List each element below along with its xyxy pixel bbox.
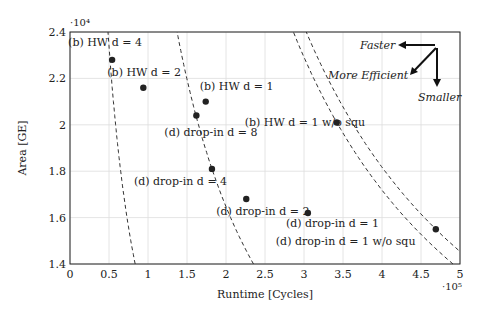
y-tick-label: 1.4 <box>49 258 67 271</box>
y-axis-label: Area [GE] <box>16 120 29 176</box>
y-tick-label: 2.4 <box>49 26 67 39</box>
y-tick-label: 2.2 <box>49 72 67 85</box>
data-point <box>209 166 215 172</box>
x-tick-label: 4 <box>379 268 386 281</box>
point-label: (b) HW d = 4 <box>68 36 142 49</box>
arrow-down-icon <box>433 79 441 87</box>
x-tick-label: 2.5 <box>256 268 274 281</box>
point-label: (d) drop-in d = 8 <box>164 126 257 139</box>
annotation-smaller: Smaller <box>418 91 462 104</box>
y-tick-label: 2 <box>59 119 66 132</box>
data-point <box>140 84 146 90</box>
x-tick-label: 5 <box>457 268 464 281</box>
data-point <box>243 196 249 202</box>
x-multiplier: ·10⁵ <box>442 281 462 292</box>
annotation-efficient: More Efficient <box>327 69 409 82</box>
x-tick-label: 3 <box>301 268 308 281</box>
x-tick-label: 0 <box>67 268 74 281</box>
point-label: (b) HW d = 1 <box>200 80 274 93</box>
x-tick-label: 1 <box>145 268 152 281</box>
x-tick-label: 4.5 <box>412 268 430 281</box>
x-tick-label: 3.5 <box>334 268 352 281</box>
data-point <box>305 210 311 216</box>
data-point <box>433 226 439 232</box>
annotation-faster: Faster <box>359 39 396 52</box>
point-label: (b) HW d = 2 <box>107 66 181 79</box>
point-label: (d) drop-in d = 1 w/o squ <box>276 235 416 248</box>
data-point <box>193 112 199 118</box>
x-axis-label: Runtime [Cycles] <box>217 288 313 301</box>
arrow-left-icon <box>398 41 406 49</box>
data-point <box>203 98 209 104</box>
x-tick-label: 0.5 <box>100 268 118 281</box>
y-multiplier: ·10⁴ <box>70 17 90 28</box>
scatter-chart: 00.511.522.533.544.551.41.61.822.22.4(b)… <box>0 0 480 313</box>
point-label: (d) drop-in d = 1 <box>286 217 379 230</box>
point-label: (d) drop-in d = 4 <box>134 175 227 188</box>
iso-curve <box>177 32 253 264</box>
x-tick-label: 2 <box>223 268 230 281</box>
y-tick-label: 1.6 <box>49 212 67 225</box>
data-point <box>109 57 115 63</box>
x-tick-label: 1.5 <box>178 268 196 281</box>
point-label: (b) HW d = 1 w/o squ <box>245 116 365 129</box>
y-tick-label: 1.8 <box>49 165 67 178</box>
